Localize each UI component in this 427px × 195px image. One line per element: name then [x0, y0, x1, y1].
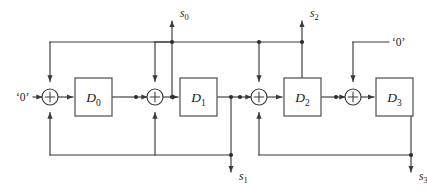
- register-d0-name: D: [85, 90, 96, 105]
- junction-d1-tap: [229, 95, 233, 99]
- adder-2[interactable]: [251, 89, 267, 105]
- register-d0[interactable]: D0: [75, 78, 112, 116]
- junction-s1-bus: [229, 153, 233, 157]
- register-d1[interactable]: D1: [180, 78, 217, 116]
- output-s2-index: 2: [314, 12, 318, 22]
- lfsr-diagram-canvas: D0 D1 D2 D3 ‘0’ ‘0’ s0 s2: [0, 0, 427, 195]
- junction-s0-bus: [170, 40, 174, 44]
- junction-d1-out: [238, 95, 242, 99]
- junction-adder2-tap: [257, 40, 261, 44]
- output-s1-index: 1: [243, 175, 247, 185]
- output-s2-label: s2: [310, 7, 319, 22]
- output-s0-label: s0: [180, 7, 189, 22]
- junction-d0-out: [134, 95, 138, 99]
- output-s0-index: 0: [184, 12, 188, 22]
- input-zero-left-label: ‘0’: [16, 91, 29, 103]
- register-d1-index: 1: [201, 98, 206, 108]
- lfsr-diagram-figure: D0 D1 D2 D3 ‘0’ ‘0’ s0 s2: [0, 0, 427, 195]
- register-d3-name: D: [386, 90, 397, 105]
- adder-1[interactable]: [147, 89, 163, 105]
- junction-d0-tap: [170, 95, 174, 99]
- input-zero-right-label: ‘0’: [392, 36, 405, 48]
- register-d2-name: D: [294, 90, 305, 105]
- register-d3[interactable]: D3: [376, 78, 413, 116]
- register-d0-index: 0: [96, 98, 101, 108]
- output-s3-label: s3: [419, 170, 427, 185]
- register-d2-index: 2: [305, 98, 310, 108]
- adder-0[interactable]: [42, 89, 58, 105]
- adder-3[interactable]: [345, 89, 361, 105]
- junction-s3-bus: [409, 153, 413, 157]
- output-s3-index: 3: [423, 175, 427, 185]
- register-d2[interactable]: D2: [284, 78, 321, 116]
- junction-dots: [134, 40, 413, 157]
- register-d3-index: 3: [397, 98, 402, 108]
- output-s1-label: s1: [239, 170, 248, 185]
- junction-s2-bus: [300, 40, 304, 44]
- junction-d2-out: [334, 95, 338, 99]
- register-d1-name: D: [190, 90, 201, 105]
